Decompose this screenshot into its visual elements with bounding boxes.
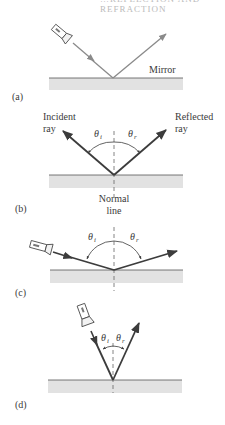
theta-r-symbol: θ	[128, 128, 133, 139]
incident-label-ray: ray	[43, 123, 56, 134]
theta-r-arc	[114, 142, 140, 153]
theta-i-symbol: θ	[94, 128, 99, 139]
panel-a: Mirror (a)	[12, 23, 183, 103]
mirror-surface	[49, 175, 183, 188]
panel-label-a: (a)	[12, 91, 23, 103]
mirror-surface	[48, 380, 182, 393]
panel-label-b: (b)	[15, 203, 27, 215]
theta-i-subscript: i	[107, 337, 109, 345]
reflected-label: Reflected	[175, 111, 213, 122]
theta-r-subscript: r	[136, 236, 139, 244]
mirror-surface	[50, 270, 183, 283]
theta-i-symbol: θ	[101, 332, 106, 343]
reflection-diagram: Mirror (a) θ i θ r Incident ray Reflecte…	[0, 0, 225, 425]
flashlight-icon	[29, 239, 53, 255]
incident-ray	[53, 252, 72, 258]
theta-r-subscript: r	[122, 337, 125, 345]
theta-i-symbol: θ	[88, 231, 93, 242]
normal-label: Normal	[99, 193, 130, 204]
mirror-label: Mirror	[149, 64, 176, 75]
flashlight-icon	[50, 23, 72, 44]
theta-i-arc	[87, 241, 114, 259]
normal-label-line: line	[107, 205, 123, 216]
theta-r-arc	[113, 346, 124, 349]
reflected-label-ray: ray	[175, 123, 188, 134]
theta-i-arc	[88, 142, 114, 153]
theta-r-symbol: θ	[116, 332, 121, 343]
theta-i-arc	[103, 346, 113, 349]
flashlight-icon	[75, 303, 94, 327]
theta-i-subscript: i	[94, 236, 96, 244]
panel-b: θ i θ r Incident ray Reflected ray Norma…	[15, 111, 213, 216]
theta-r-symbol: θ	[130, 231, 135, 242]
incident-label: Incident	[43, 111, 76, 122]
theta-i-subscript: i	[100, 133, 102, 141]
panel-label-c: (c)	[15, 287, 26, 299]
panel-c: θ i θ r (c)	[15, 227, 183, 299]
panel-label-d: (d)	[15, 399, 27, 411]
mirror-surface	[49, 78, 183, 90]
reflected-ray	[114, 251, 177, 270]
panel-d: θ i θ r (d)	[15, 303, 182, 411]
incident-ray	[73, 43, 94, 61]
theta-r-subscript: r	[134, 133, 137, 141]
incident-ray	[91, 331, 97, 345]
